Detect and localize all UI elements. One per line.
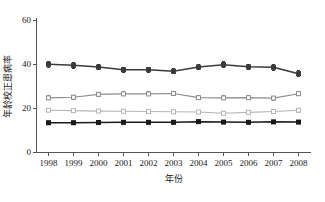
data-point-marker <box>47 96 51 100</box>
data-point-marker <box>247 120 251 124</box>
chart-container: 0204060 19981999200020012002200320042005… <box>0 0 325 202</box>
data-point-marker <box>147 120 151 124</box>
data-point-marker <box>172 91 176 95</box>
data-point-marker <box>197 96 201 100</box>
x-axis-tick-label: 1999 <box>65 158 84 168</box>
series-1 <box>47 61 301 76</box>
data-point-marker <box>47 121 51 125</box>
data-point-marker <box>147 110 151 114</box>
data-point-marker <box>97 92 101 96</box>
data-point-marker <box>47 62 51 66</box>
series-2 <box>47 91 301 100</box>
data-point-marker <box>72 109 76 113</box>
y-axis-title: 年龄校正患病率 <box>2 55 13 118</box>
data-point-marker <box>147 68 151 72</box>
x-axis-tick-label: 2002 <box>140 158 158 168</box>
x-axis-title: 年份 <box>165 173 183 184</box>
y-axis-tick-label: 20 <box>22 103 32 113</box>
x-axis-tick-label: 2000 <box>90 158 109 168</box>
x-axis-tick-label: 2003 <box>165 158 184 168</box>
data-point-marker <box>247 65 251 69</box>
x-axis-tick-label: 2006 <box>240 158 259 168</box>
data-point-marker <box>197 120 201 124</box>
x-axis-tick-label: 2008 <box>290 158 309 168</box>
y-axis-tick-label: 40 <box>22 59 32 69</box>
data-point-marker <box>72 121 76 125</box>
data-point-marker <box>222 63 226 67</box>
data-point-marker <box>72 95 76 99</box>
data-point-marker <box>197 65 201 69</box>
x-axis-tick-label: 2007 <box>265 158 284 168</box>
data-point-marker <box>172 69 176 73</box>
series-3 <box>47 108 301 115</box>
x-axis-tick-label: 1998 <box>40 158 59 168</box>
data-point-marker <box>297 92 301 96</box>
data-point-marker <box>122 68 126 72</box>
data-point-marker <box>47 108 51 112</box>
data-point-marker <box>247 96 251 100</box>
data-point-marker <box>222 111 226 115</box>
x-axis-tick-label: 2005 <box>215 158 234 168</box>
data-point-marker <box>222 120 226 124</box>
data-point-marker <box>297 120 301 124</box>
data-point-marker <box>72 63 76 67</box>
line-chart-plot: 0204060 19981999200020012002200320042005… <box>0 0 325 202</box>
x-axis-tick-label: 2001 <box>115 158 133 168</box>
data-series-layer <box>47 61 301 124</box>
data-point-marker <box>222 96 226 100</box>
x-axis: 1998199920002001200220032004200520062007… <box>36 152 311 168</box>
y-axis: 0204060 <box>22 15 36 157</box>
y-axis-tick-label: 0 <box>27 147 32 157</box>
x-axis-tick-label: 2004 <box>190 158 209 168</box>
data-point-marker <box>122 92 126 96</box>
data-point-marker <box>172 110 176 114</box>
data-point-marker <box>172 120 176 124</box>
data-point-marker <box>122 120 126 124</box>
data-point-marker <box>197 110 201 114</box>
data-point-marker <box>272 120 276 124</box>
data-point-marker <box>97 109 101 113</box>
y-axis-tick-label: 60 <box>22 15 32 25</box>
data-point-marker <box>272 110 276 114</box>
data-point-marker <box>147 92 151 96</box>
data-point-marker <box>297 108 301 112</box>
data-point-marker <box>272 65 276 69</box>
data-point-marker <box>297 72 301 76</box>
data-point-marker <box>272 96 276 100</box>
data-point-marker <box>97 65 101 69</box>
data-point-marker <box>247 110 251 114</box>
data-point-marker <box>122 109 126 113</box>
data-point-marker <box>97 121 101 125</box>
series-4 <box>47 120 301 125</box>
